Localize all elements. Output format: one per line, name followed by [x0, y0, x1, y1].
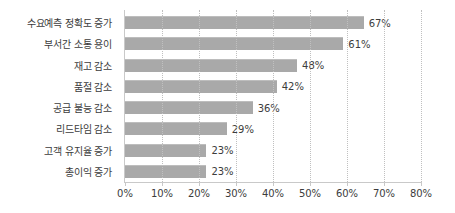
bar-row: 42% [125, 76, 421, 97]
bar [125, 165, 206, 178]
category-label: 고객 유지율 증가 [0, 140, 119, 161]
bar-chart: 수요예측 정확도 증가 부서간 소통 용이 재고 감소 품절 감소 공급 불능 … [0, 0, 455, 213]
x-axis-tick [236, 182, 237, 186]
gridline [421, 10, 422, 182]
bar-value-label: 61% [343, 38, 370, 49]
category-label: 리드타임 감소 [0, 118, 119, 139]
category-axis-labels: 수요예측 정확도 증가 부서간 소통 용이 재고 감소 품절 감소 공급 불능 … [0, 12, 119, 182]
x-axis-tick [347, 182, 348, 186]
category-label: 총이익 증가 [0, 161, 119, 182]
x-axis-tick [421, 182, 422, 186]
bar [125, 101, 253, 114]
x-axis-tick-label: 60% [336, 188, 358, 199]
bar [125, 80, 277, 93]
x-axis-tick [384, 182, 385, 186]
bar [125, 16, 364, 29]
bar-row: 67% [125, 12, 421, 33]
bar-value-label: 23% [206, 166, 233, 177]
bar [125, 144, 206, 157]
bar-row: 23% [125, 140, 421, 161]
category-label: 재고 감소 [0, 55, 119, 76]
bar-value-label: 29% [227, 123, 254, 134]
bar [125, 59, 297, 72]
bar-row: 23% [125, 161, 421, 182]
bar-row: 48% [125, 55, 421, 76]
bar-row: 61% [125, 33, 421, 54]
x-axis-tick [273, 182, 274, 186]
x-axis-tick-label: 30% [225, 188, 247, 199]
x-axis-tick [199, 182, 200, 186]
x-axis-tick-label: 50% [299, 188, 321, 199]
x-axis-tick [310, 182, 311, 186]
bar-value-label: 48% [297, 60, 324, 71]
x-axis-tick-label: 20% [188, 188, 210, 199]
bar-row: 29% [125, 118, 421, 139]
x-axis-tick [125, 182, 126, 186]
bar-value-label: 42% [277, 81, 304, 92]
x-axis-tick-labels: 0%10%20%30%40%50%60%70%80% [125, 188, 421, 204]
category-label: 수요예측 정확도 증가 [0, 12, 119, 33]
bar-series: 67% 61% 48% 42% 36% 29% 23% 23% [125, 12, 421, 182]
x-axis-tick-label: 10% [151, 188, 173, 199]
bar [125, 122, 227, 135]
bar-row: 36% [125, 97, 421, 118]
x-axis-tick-label: 70% [373, 188, 395, 199]
x-axis-tick-label: 0% [117, 188, 133, 199]
bar [125, 37, 343, 50]
category-label: 공급 불능 감소 [0, 97, 119, 118]
x-axis-tick-label: 80% [410, 188, 432, 199]
bar-value-label: 23% [206, 145, 233, 156]
category-label: 품절 감소 [0, 76, 119, 97]
x-axis-ticks [125, 182, 421, 186]
x-axis-tick-label: 40% [262, 188, 284, 199]
category-label: 부서간 소통 용이 [0, 33, 119, 54]
bar-value-label: 36% [253, 102, 280, 113]
x-axis-tick [162, 182, 163, 186]
bar-value-label: 67% [364, 17, 391, 28]
